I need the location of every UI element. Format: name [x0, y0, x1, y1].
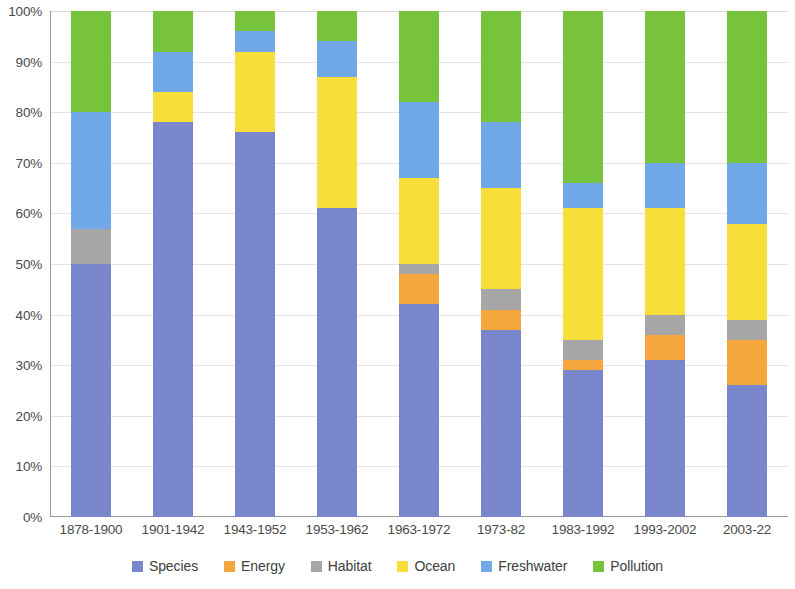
bar-segment-freshwater[interactable] [481, 122, 521, 188]
bar-segment-habitat[interactable] [481, 289, 521, 309]
x-axis-tick-label: 2003-22 [706, 522, 788, 548]
bar-segment-species[interactable] [235, 132, 275, 517]
chart-legend: SpeciesEnergyHabitatOceanFreshwaterPollu… [0, 558, 795, 574]
bar-segment-freshwater[interactable] [153, 52, 193, 92]
bar-slot [378, 11, 460, 517]
y-axis-tick-label: 80% [16, 105, 42, 120]
plot-wrapper: 100%90%80%70%60%50%40%30%20%10%0% 1878-1… [0, 0, 795, 545]
legend-label: Freshwater [498, 558, 567, 574]
bar-segment-freshwater[interactable] [399, 102, 439, 178]
bar-segment-ocean[interactable] [563, 208, 603, 340]
legend-item-habitat[interactable]: Habitat [311, 558, 372, 574]
bar-segment-ocean[interactable] [645, 208, 685, 314]
legend-item-pollution[interactable]: Pollution [593, 558, 663, 574]
bar-segment-freshwater[interactable] [645, 163, 685, 209]
y-axis-tick-label: 30% [16, 358, 42, 373]
x-axis-tick-label: 1901-1942 [132, 522, 214, 548]
bar-segment-ocean[interactable] [481, 188, 521, 289]
stacked-bar[interactable] [317, 11, 357, 517]
bars-layer [50, 11, 788, 517]
y-axis-tick-label: 100% [8, 4, 42, 19]
legend-swatch-icon [593, 561, 604, 572]
bar-segment-energy[interactable] [645, 335, 685, 360]
x-axis-tick-label: 1983-1992 [542, 522, 624, 548]
bar-segment-species[interactable] [645, 360, 685, 517]
bar-segment-species[interactable] [727, 385, 767, 517]
bar-segment-pollution[interactable] [71, 11, 111, 112]
bar-segment-pollution[interactable] [563, 11, 603, 183]
bar-segment-pollution[interactable] [727, 11, 767, 163]
bar-segment-ocean[interactable] [727, 224, 767, 320]
legend-item-ocean[interactable]: Ocean [397, 558, 455, 574]
bar-segment-species[interactable] [563, 370, 603, 517]
legend-swatch-icon [224, 561, 235, 572]
bar-segment-freshwater[interactable] [235, 31, 275, 51]
bar-segment-pollution[interactable] [317, 11, 357, 41]
bar-segment-habitat[interactable] [399, 264, 439, 274]
stacked-bar[interactable] [71, 11, 111, 517]
bar-segment-habitat[interactable] [727, 320, 767, 340]
bar-segment-species[interactable] [71, 264, 111, 517]
bar-slot [132, 11, 214, 517]
x-axis-tick-label: 1878-1900 [50, 522, 132, 548]
y-axis-tick-label: 10% [16, 459, 42, 474]
stacked-bar[interactable] [235, 11, 275, 517]
y-axis-tick-label: 70% [16, 155, 42, 170]
stacked-bar[interactable] [645, 11, 685, 517]
bar-segment-species[interactable] [399, 304, 439, 517]
stacked-bar[interactable] [563, 11, 603, 517]
bar-segment-pollution[interactable] [235, 11, 275, 31]
y-axis-tick-label: 0% [23, 510, 42, 525]
legend-item-species[interactable]: Species [132, 558, 198, 574]
legend-swatch-icon [132, 561, 143, 572]
bar-segment-energy[interactable] [727, 340, 767, 386]
bar-segment-habitat[interactable] [645, 315, 685, 335]
bar-segment-freshwater[interactable] [563, 183, 603, 208]
y-axis: 100%90%80%70%60%50%40%30%20%10%0% [0, 0, 46, 525]
legend-item-freshwater[interactable]: Freshwater [481, 558, 567, 574]
bar-segment-habitat[interactable] [563, 340, 603, 360]
bar-slot [542, 11, 624, 517]
bar-segment-freshwater[interactable] [727, 163, 767, 224]
y-axis-tick-label: 40% [16, 307, 42, 322]
bar-segment-ocean[interactable] [317, 77, 357, 209]
bar-segment-ocean[interactable] [153, 92, 193, 122]
x-axis-tick-label: 1963-1972 [378, 522, 460, 548]
x-axis: 1878-19001901-19421943-19521953-19621963… [50, 522, 788, 548]
bar-segment-pollution[interactable] [481, 11, 521, 122]
x-axis-tick-label: 1973-82 [460, 522, 542, 548]
bar-segment-freshwater[interactable] [71, 112, 111, 228]
bar-slot [50, 11, 132, 517]
stacked-bar[interactable] [727, 11, 767, 517]
y-axis-tick-label: 90% [16, 54, 42, 69]
bar-segment-energy[interactable] [563, 360, 603, 370]
bar-segment-ocean[interactable] [399, 178, 439, 264]
bar-segment-species[interactable] [153, 122, 193, 517]
bar-segment-energy[interactable] [481, 310, 521, 330]
bar-slot [624, 11, 706, 517]
legend-label: Habitat [328, 558, 372, 574]
bar-segment-species[interactable] [481, 330, 521, 517]
bar-segment-pollution[interactable] [399, 11, 439, 102]
stacked-bar[interactable] [399, 11, 439, 517]
legend-swatch-icon [397, 561, 408, 572]
x-axis-tick-label: 1993-2002 [624, 522, 706, 548]
legend-item-energy[interactable]: Energy [224, 558, 285, 574]
bar-segment-habitat[interactable] [71, 229, 111, 264]
legend-label: Species [149, 558, 198, 574]
stacked-bar[interactable] [481, 11, 521, 517]
bar-segment-pollution[interactable] [153, 11, 193, 51]
stacked-bar[interactable] [153, 11, 193, 517]
x-axis-tick-label: 1943-1952 [214, 522, 296, 548]
bar-slot [706, 11, 788, 517]
y-axis-tick-label: 20% [16, 408, 42, 423]
bar-segment-energy[interactable] [399, 274, 439, 304]
bar-segment-freshwater[interactable] [317, 41, 357, 76]
bar-segment-pollution[interactable] [645, 11, 685, 163]
bar-slot [296, 11, 378, 517]
legend-label: Pollution [610, 558, 663, 574]
bar-segment-ocean[interactable] [235, 52, 275, 133]
legend-label: Energy [241, 558, 285, 574]
y-axis-tick-label: 60% [16, 206, 42, 221]
bar-segment-species[interactable] [317, 208, 357, 517]
